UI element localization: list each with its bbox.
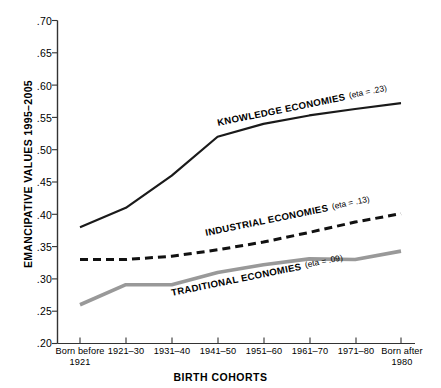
- y-axis-ticks: [52, 21, 58, 344]
- svg-text:(eta = .09): (eta = .09): [304, 252, 344, 269]
- annotation-industrial: INDUSTRIAL ECONOMIES (eta = .13): [204, 194, 371, 238]
- annotation-knowledge: KNOWLEDGE ECONOMIES (eta = .23): [216, 83, 388, 128]
- chart-container: EMANCIPATIVE VALUES 1995–2005 .70 .65 .6…: [0, 0, 441, 388]
- chart-plot-area: KNOWLEDGE ECONOMIES (eta = .23) INDUSTRI…: [0, 0, 441, 388]
- annotation-traditional: TRADITIONAL ECONOMIES (eta = .09): [170, 252, 344, 298]
- svg-text:INDUSTRIAL ECONOMIES: INDUSTRIAL ECONOMIES: [204, 202, 329, 238]
- x-axis-ticks: [80, 338, 401, 344]
- svg-text:(eta = .13): (eta = .13): [331, 194, 371, 211]
- x-tick-label-cohort-7: Born after 1980: [370, 346, 434, 367]
- svg-text:KNOWLEDGE ECONOMIES: KNOWLEDGE ECONOMIES: [216, 91, 346, 128]
- x-axis-title: BIRTH COHORTS: [0, 371, 441, 383]
- svg-text:(eta = .23): (eta = .23): [348, 83, 388, 100]
